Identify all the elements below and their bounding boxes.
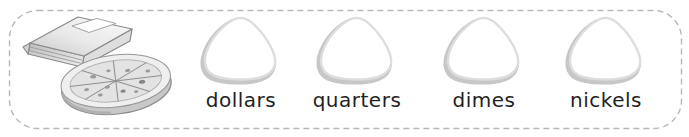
answer-label-dollars: dollars bbox=[206, 89, 276, 111]
answer-cell-quarters: quarters bbox=[307, 13, 407, 123]
answer-spot-quarters[interactable] bbox=[313, 13, 401, 87]
answer-cell-nickels: nickels bbox=[556, 13, 656, 123]
answer-cell-dimes: dimes bbox=[434, 13, 534, 123]
answer-spot-dimes[interactable] bbox=[440, 13, 528, 87]
answer-cell-dollars: dollars bbox=[191, 13, 291, 123]
answer-spot-nickels[interactable] bbox=[562, 13, 650, 87]
answer-label-nickels: nickels bbox=[570, 89, 642, 111]
answer-label-dimes: dimes bbox=[453, 89, 516, 111]
answer-label-quarters: quarters bbox=[313, 89, 402, 111]
worksheet-row: dollars quarters dimes nickels bbox=[0, 0, 689, 137]
pizza-and-box-illustration bbox=[20, 12, 178, 118]
answer-spot-dollars[interactable] bbox=[197, 13, 285, 87]
